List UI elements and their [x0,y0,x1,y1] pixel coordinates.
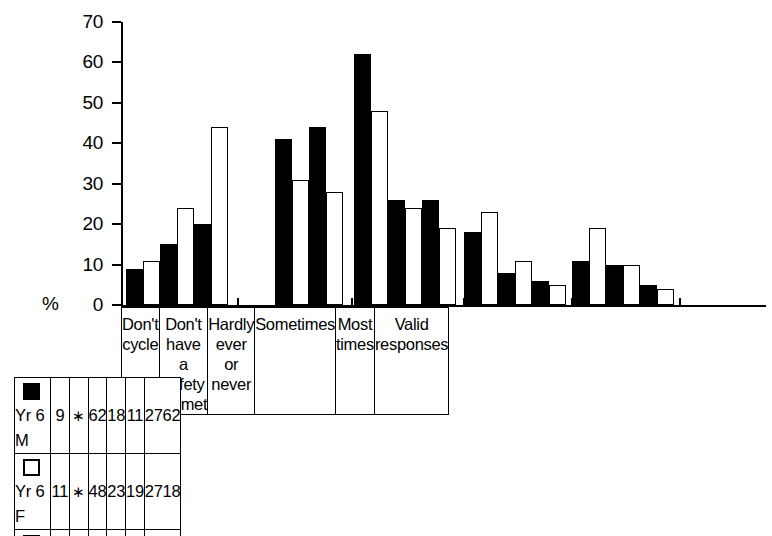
asterisk-icon: ∗ [72,483,85,500]
chart-figure: 010203040506070 % Don't cycleDon't havea… [0,0,772,536]
category-header-line: Sometimes [255,314,335,334]
values-table: Yr 6 M9∗6218112762Yr 6 F11∗4823192718Yr … [14,377,181,536]
bar [549,285,566,305]
bar [481,212,498,305]
value-cell: 48 [88,454,107,530]
y-axis-tick-mark [112,183,121,185]
bar [194,224,211,305]
y-axis-tick-mark [112,304,121,306]
group-separator-tick [571,298,573,307]
y-axis-tick-label: 20 [69,214,103,233]
value-cell: 23 [107,454,126,530]
value-cell: 9 [51,378,70,454]
bar [606,265,623,305]
value-cell: 10 [126,530,145,536]
category-header-line: Most times [336,314,374,354]
value-cell: 2762 [144,378,181,454]
series-legend-cell: Yr 8 M [15,530,51,536]
bar [439,228,456,305]
bar [498,273,515,305]
y-axis-tick-label: 0 [69,295,103,314]
group-separator-tick [679,298,681,307]
bar [309,127,326,305]
group-separator-tick [237,298,239,307]
bar [292,180,309,305]
legend-label: Yr 6 M [15,403,50,453]
missing-value-cell: ∗ [69,378,88,454]
category-header-line: responses [375,334,448,354]
legend-swatch-icon [23,459,40,476]
y-axis-tick-mark [112,223,121,225]
y-axis-tick-label: 10 [69,255,103,274]
bar [640,285,657,305]
value-cell: 26 [88,530,107,536]
bar [422,200,439,305]
bar [371,111,388,305]
y-axis-tick-mark [112,142,121,144]
value-cell: 8 [107,530,126,536]
y-axis-tick-label: 60 [69,52,103,71]
value-cell: 11 [126,378,145,454]
bar [405,208,422,305]
y-axis-tick-mark [112,21,121,23]
bar [623,265,640,305]
group-separator-tick [351,298,353,307]
value-cell: 19 [126,454,145,530]
category-header-cell: Most times [335,308,374,415]
bar [515,261,532,305]
legend-swatch-icon [23,383,40,400]
category-header-cell: Sometimes [255,308,336,415]
table-row: Yr 6 M9∗6218112762 [15,378,181,454]
value-cell: 2718 [144,454,181,530]
bar [388,200,405,305]
legend-label: Yr 6 F [15,479,50,529]
y-axis-label: % [42,294,59,313]
category-header-line: Valid [375,314,448,334]
value-cell: 18 [107,378,126,454]
bar [126,269,143,305]
bar [160,244,177,305]
asterisk-icon: ∗ [72,407,85,424]
bar [326,192,343,305]
category-header-line: Hardly ever [208,314,254,354]
bar [275,139,292,305]
bar-chart-plot: 010203040506070 % [0,0,772,310]
category-header-line: or never [208,354,254,394]
category-header-cell: Hardly everor never [208,308,255,415]
value-cell: 62 [88,378,107,454]
bar [354,54,371,305]
category-header-cell: Validresponses [374,308,448,415]
y-axis-tick-label: 30 [69,174,103,193]
y-axis-tick-mark [112,102,121,104]
series-legend-cell: Yr 6 F [15,454,51,530]
table-row: Yr 6 F11∗4823192718 [15,454,181,530]
y-axis-tick-label: 70 [69,12,103,31]
series-legend-cell: Yr 6 M [15,378,51,454]
group-separator-tick [463,298,465,307]
bar [464,232,481,305]
value-cell: 15 [51,530,70,536]
value-cell: 41 [69,530,88,536]
y-axis-line [121,22,123,307]
table-row: Yr 8 M1541268101766 [15,530,181,536]
category-header-line: Don't have [160,314,208,354]
category-header-line: Don't cycle [122,314,159,354]
bar [532,281,549,305]
y-axis-tick-label: 50 [69,93,103,112]
bar [589,228,606,305]
y-axis-tick-mark [112,264,121,266]
value-cell: 1766 [144,530,181,536]
bar [657,289,674,305]
missing-value-cell: ∗ [69,454,88,530]
bar [177,208,194,305]
y-axis-tick-mark [112,61,121,63]
value-cell: 11 [51,454,70,530]
y-axis-tick-label: 40 [69,133,103,152]
bar [211,127,228,305]
bar [143,261,160,305]
bar [572,261,589,305]
